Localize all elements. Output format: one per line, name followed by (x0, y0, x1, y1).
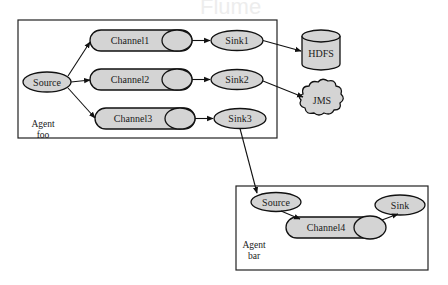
hdfs-label: HDFS (308, 48, 334, 59)
bar-source-node[interactable]: Source (251, 193, 301, 212)
edge-sink1-hdfs (263, 41, 301, 52)
channel3-node[interactable]: Channel3 (95, 108, 195, 129)
edge-bar-source-channel4 (281, 211, 300, 219)
channel3-label: Channel3 (114, 113, 152, 124)
sink2-label: Sink2 (225, 74, 248, 85)
hdfs-node[interactable]: HDFS (302, 30, 340, 70)
edge-source-channel2 (71, 80, 90, 82)
background-ghost-title: Flume (200, 0, 261, 19)
sink1-label: Sink1 (225, 35, 248, 46)
agent-foo-label-line1: Agent (31, 119, 55, 129)
sink3-node[interactable]: Sink3 (214, 109, 266, 129)
flume-multi-agent-diagram: Flume Agent foo Source Channel1 Channel2… (0, 0, 448, 285)
foo-source-node[interactable]: Source (23, 72, 71, 92)
channel2-label: Channel2 (111, 74, 149, 85)
foo-source-label: Source (33, 77, 61, 88)
bar-source-label: Source (262, 197, 290, 208)
agent-bar: Agent bar Source Channel4 Sink (236, 186, 428, 270)
bar-sink-node[interactable]: Sink (375, 195, 425, 215)
edge-source-channel3 (68, 88, 95, 118)
agent-foo-label-line2: foo (37, 130, 50, 140)
agent-bar-label-line2: bar (248, 251, 261, 261)
channel1-label: Channel1 (111, 35, 149, 46)
agent-foo: Agent foo Source Channel1 Channel2 Chann… (18, 20, 277, 140)
edge-source-channel1 (68, 42, 90, 76)
jms-node[interactable]: JMS (299, 79, 343, 115)
channel2-node[interactable]: Channel2 (90, 69, 192, 90)
edge-channel4-bar-sink (382, 214, 398, 220)
edge-sink2-jms (263, 81, 303, 97)
channel1-node[interactable]: Channel1 (90, 30, 192, 51)
agent-bar-label-line1: Agent (242, 240, 266, 250)
bar-sink-label: Sink (391, 200, 409, 211)
sink2-node[interactable]: Sink2 (211, 70, 263, 90)
jms-label: JMS (313, 95, 331, 106)
sink3-label: Sink3 (228, 113, 251, 124)
sink1-node[interactable]: Sink1 (211, 31, 263, 51)
channel4-label: Channel4 (307, 222, 345, 233)
channel4-node[interactable]: Channel4 (286, 216, 386, 239)
edges (68, 41, 398, 221)
